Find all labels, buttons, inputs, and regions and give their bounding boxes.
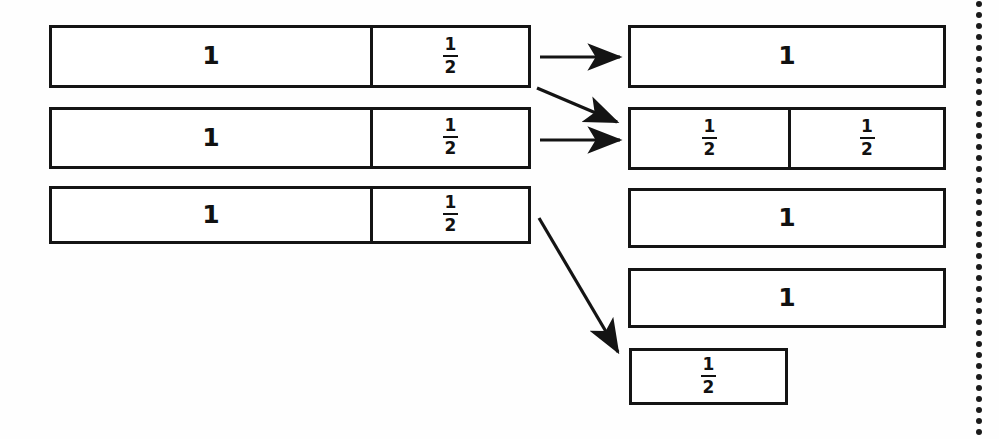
rule-dot <box>976 319 982 325</box>
rule-dot <box>976 429 982 435</box>
rule-dot <box>976 166 982 172</box>
fraction-denominator: 2 <box>445 216 457 234</box>
right-bar-3-cell-whole: 1 <box>631 191 943 245</box>
rule-dot <box>976 23 982 29</box>
rule-dot <box>976 330 982 336</box>
fraction-one-half: 1 2 <box>860 118 875 158</box>
whole-numeral: 1 <box>202 43 219 68</box>
rule-dot <box>976 221 982 227</box>
rule-dot <box>976 363 982 369</box>
rule-dot <box>976 177 982 183</box>
rule-dot <box>976 188 982 194</box>
rule-dot <box>976 144 982 150</box>
rule-dot <box>976 45 982 51</box>
rule-dot <box>976 100 982 106</box>
whole-numeral: 1 <box>202 125 219 150</box>
left-bar-3-cell-whole: 1 <box>52 189 370 241</box>
rule-dot <box>976 253 982 259</box>
fraction-numerator: 1 <box>703 356 715 374</box>
rule-dot <box>976 275 982 281</box>
whole-numeral: 1 <box>778 285 795 310</box>
right-bar-1: 1 <box>628 25 946 88</box>
fraction-denominator: 2 <box>704 140 716 158</box>
rule-dot <box>976 89 982 95</box>
right-bar-3: 1 <box>628 188 946 248</box>
arrow-row3-to-half <box>539 218 618 352</box>
rule-dot <box>976 122 982 128</box>
fraction-one-half: 1 2 <box>443 36 458 76</box>
fraction-denominator: 2 <box>861 140 873 158</box>
fraction-denominator: 2 <box>445 58 457 76</box>
whole-numeral: 1 <box>778 205 795 230</box>
fraction-denominator: 2 <box>445 139 457 157</box>
rule-dot <box>976 199 982 205</box>
rule-dot <box>976 111 982 117</box>
left-bar-2: 1 1 2 <box>49 107 531 169</box>
rule-dot <box>976 1 982 7</box>
rule-dot <box>976 264 982 270</box>
rule-dot <box>976 374 982 380</box>
right-bar-2: 1 2 1 2 <box>628 107 946 170</box>
arrow-row1-to-halves <box>537 88 617 122</box>
left-bar-2-cell-half: 1 2 <box>370 110 528 166</box>
whole-numeral: 1 <box>202 202 219 227</box>
left-bar-3: 1 1 2 <box>49 186 531 244</box>
rule-dot <box>976 352 982 358</box>
rule-dot <box>976 231 982 237</box>
fraction-numerator: 1 <box>445 117 457 135</box>
rule-dot <box>976 12 982 18</box>
rule-dot <box>976 242 982 248</box>
rule-dot <box>976 396 982 402</box>
rule-dot <box>976 385 982 391</box>
left-bar-1-cell-half: 1 2 <box>370 28 528 85</box>
fraction-one-half: 1 2 <box>443 117 458 157</box>
rule-dot <box>976 56 982 62</box>
rule-dot <box>976 297 982 303</box>
fraction-one-half: 1 2 <box>701 356 716 396</box>
fraction-numerator: 1 <box>445 194 457 212</box>
fraction-numerator: 1 <box>445 36 457 54</box>
rule-dot <box>976 308 982 314</box>
right-bar-2-cell-half-b: 1 2 <box>788 110 943 167</box>
left-bar-2-cell-whole: 1 <box>52 110 370 166</box>
rule-dot <box>976 341 982 347</box>
right-bar-2-cell-half-a: 1 2 <box>631 110 788 167</box>
page-edge-dotted-rule <box>976 0 983 439</box>
fraction-numerator: 1 <box>704 118 716 136</box>
rule-dot <box>976 407 982 413</box>
right-bar-1-cell-whole: 1 <box>631 28 943 85</box>
left-bar-1-cell-whole: 1 <box>52 28 370 85</box>
rule-dot <box>976 133 982 139</box>
left-bar-1: 1 1 2 <box>49 25 531 88</box>
diagram-canvas: 1 1 2 1 1 2 1 1 <box>0 0 999 439</box>
rule-dot <box>976 155 982 161</box>
rule-dot <box>976 210 982 216</box>
rule-dot <box>976 286 982 292</box>
fraction-one-half: 1 2 <box>443 194 458 234</box>
rule-dot <box>976 67 982 73</box>
left-bar-3-cell-half: 1 2 <box>370 189 528 241</box>
rule-dot <box>976 78 982 84</box>
rule-dot <box>976 34 982 40</box>
rule-dot <box>976 418 982 424</box>
right-bar-5-cell-half: 1 2 <box>632 351 785 402</box>
fraction-one-half: 1 2 <box>702 118 717 158</box>
right-bar-4-cell-whole: 1 <box>631 271 943 325</box>
right-bar-4: 1 <box>628 268 946 328</box>
right-bar-5: 1 2 <box>629 348 788 405</box>
whole-numeral: 1 <box>778 43 795 68</box>
fraction-numerator: 1 <box>861 118 873 136</box>
fraction-denominator: 2 <box>703 378 715 396</box>
